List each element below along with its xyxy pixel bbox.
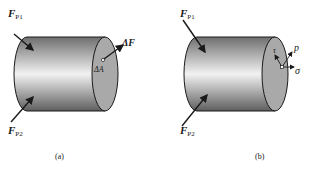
label-delta-area: ΔA (93, 65, 104, 74)
label-fp1-b: FP1 (179, 7, 195, 21)
caption-b: (b) (255, 152, 265, 161)
end-face-a (92, 37, 118, 111)
label-fp2-a: FP2 (7, 124, 23, 138)
caption-a: (a) (55, 152, 64, 161)
label-sigma: σ (295, 65, 301, 76)
label-fp1-a: FP1 (7, 7, 23, 21)
label-p: p (293, 42, 299, 53)
panel-a: FP1 FP2 ΔF ΔA (a) (7, 7, 135, 161)
diagram-canvas: FP1 FP2 ΔF ΔA (a) FP1 FP2 p τ σ (b) (0, 0, 310, 169)
label-delta-force: ΔF (121, 37, 135, 48)
panel-b: FP1 FP2 p τ σ (b) (179, 7, 301, 161)
stress-point-b (281, 66, 284, 69)
area-point-a (101, 58, 104, 61)
label-fp2-b: FP2 (179, 124, 195, 138)
